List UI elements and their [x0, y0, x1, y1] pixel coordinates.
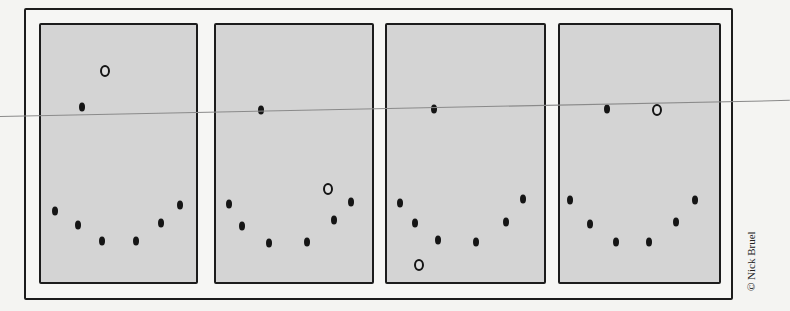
filled-dot	[239, 222, 245, 231]
filled-dot	[673, 218, 679, 227]
hollow-dot	[652, 104, 662, 116]
copyright-credit: © Nick Bruel	[745, 231, 757, 291]
filled-dot	[435, 236, 441, 245]
filled-dot	[520, 195, 526, 204]
filled-dot	[158, 219, 164, 228]
filled-dot	[431, 105, 437, 114]
filled-dot	[604, 105, 610, 114]
filled-dot	[226, 200, 232, 209]
filled-dot	[473, 238, 479, 247]
filled-dot	[348, 198, 354, 207]
hollow-dot	[323, 183, 333, 195]
filled-dot	[503, 218, 509, 227]
filled-dot	[331, 216, 337, 225]
hollow-dot	[414, 259, 424, 271]
filled-dot	[692, 196, 698, 205]
comic-panel-2	[214, 23, 374, 284]
filled-dot	[75, 221, 81, 230]
filled-dot	[613, 238, 619, 247]
comic-panel-3	[385, 23, 546, 284]
filled-dot	[79, 103, 85, 112]
comic-panel-4	[558, 23, 721, 284]
filled-dot	[397, 199, 403, 208]
filled-dot	[587, 220, 593, 229]
filled-dot	[266, 239, 272, 248]
comic-panel-1	[39, 23, 198, 284]
filled-dot	[99, 237, 105, 246]
filled-dot	[133, 237, 139, 246]
filled-dot	[646, 238, 652, 247]
filled-dot	[567, 196, 573, 205]
filled-dot	[412, 219, 418, 228]
filled-dot	[177, 201, 183, 210]
filled-dot	[304, 238, 310, 247]
hollow-dot	[100, 65, 110, 77]
filled-dot	[52, 207, 58, 216]
